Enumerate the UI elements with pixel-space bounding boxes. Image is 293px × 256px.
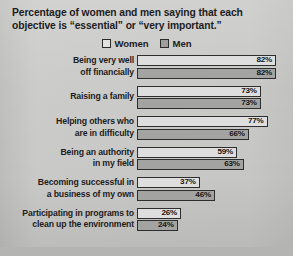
chart-title: Percentage of women and men saying that … xyxy=(12,6,284,32)
bar-row: 73% xyxy=(137,98,293,109)
bar-women: 77% xyxy=(137,116,268,127)
bar-value-label: 26% xyxy=(161,209,177,217)
chart-card: Percentage of women and men saying that … xyxy=(0,0,293,256)
bar-pair: 37%46% xyxy=(137,177,293,201)
chart-title-line-2: objective is “essential” or “very import… xyxy=(12,19,284,32)
legend-swatch-men-icon xyxy=(160,39,169,48)
category-label: Becoming successful ina business of my o… xyxy=(0,177,137,200)
bar-value-label: 73% xyxy=(241,99,257,107)
category-label-line: off financially xyxy=(0,67,134,79)
bar-row: 82% xyxy=(137,55,293,66)
bar-value-label: 73% xyxy=(241,87,257,95)
bar-women: 82% xyxy=(137,55,276,66)
bar-men: 63% xyxy=(137,159,244,170)
category-label-line: Being an authority xyxy=(60,147,134,157)
bar-men: 66% xyxy=(137,129,249,140)
bar-row: 77% xyxy=(137,116,293,127)
bar-value-label: 77% xyxy=(248,117,264,125)
bar-group: Participating in programs toclean up the… xyxy=(0,208,293,232)
category-label-line: are in difficulty xyxy=(0,128,134,140)
category-label-line: in my field xyxy=(0,158,134,170)
bar-pair: 77%66% xyxy=(137,116,293,140)
category-label: Being very welloff financially xyxy=(0,55,137,78)
bar-row: 37% xyxy=(137,177,293,188)
bar-women: 26% xyxy=(137,208,181,219)
bar-row: 73% xyxy=(137,86,293,97)
category-label-line: Participating in programs to xyxy=(22,208,134,218)
legend-item-men: Men xyxy=(160,38,192,49)
bar-men: 73% xyxy=(137,98,261,109)
bar-value-label: 59% xyxy=(217,148,233,156)
bar-women: 37% xyxy=(137,177,200,188)
category-label-line: Raising a family xyxy=(70,91,134,101)
category-label: Raising a family xyxy=(0,91,137,103)
bar-row: 24% xyxy=(137,220,293,231)
bar-row: 26% xyxy=(137,208,293,219)
bar-pair: 59%63% xyxy=(137,147,293,171)
bar-value-label: 37% xyxy=(180,178,196,186)
bar-value-label: 63% xyxy=(224,160,240,168)
legend-label-women: Women xyxy=(115,38,149,49)
bar-row: 63% xyxy=(137,159,293,170)
bar-value-label: 46% xyxy=(195,191,211,199)
category-label-line: Becoming successful in xyxy=(38,177,134,187)
bar-value-label: 66% xyxy=(229,130,245,138)
category-label-line: a business of my own xyxy=(0,189,134,201)
bar-men: 24% xyxy=(137,220,178,231)
bar-men: 82% xyxy=(137,68,276,79)
bar-group: Being very welloff financially82%82% xyxy=(0,55,293,79)
category-label: Helping others whoare in difficulty xyxy=(0,116,137,139)
bar-group: Helping others whoare in difficulty77%66… xyxy=(0,116,293,140)
category-label-line: clean up the environment xyxy=(0,219,134,231)
bar-men: 46% xyxy=(137,190,215,201)
category-label: Participating in programs toclean up the… xyxy=(0,208,137,231)
bar-row: 66% xyxy=(137,129,293,140)
bar-chart-plot: Being very welloff financially82%82%Rais… xyxy=(0,55,293,231)
chart-title-line-1: Percentage of women and men saying that … xyxy=(12,6,284,19)
category-label: Being an authorityin my field xyxy=(0,147,137,170)
bar-pair: 73%73% xyxy=(137,86,293,110)
legend-label-men: Men xyxy=(173,38,192,49)
bar-row: 46% xyxy=(137,190,293,201)
bar-value-label: 24% xyxy=(158,221,174,229)
bar-value-label: 82% xyxy=(256,56,272,64)
chart-legend: Women Men xyxy=(0,38,293,49)
bar-pair: 82%82% xyxy=(137,55,293,79)
bar-pair: 26%24% xyxy=(137,208,293,232)
bar-women: 73% xyxy=(137,86,261,97)
bar-group: Raising a family73%73% xyxy=(0,86,293,110)
category-label-line: Being very well xyxy=(73,55,134,65)
bar-row: 82% xyxy=(137,68,293,79)
bar-group: Becoming successful ina business of my o… xyxy=(0,177,293,201)
legend-item-women: Women xyxy=(102,38,149,49)
bar-women: 59% xyxy=(137,147,237,158)
bar-value-label: 82% xyxy=(256,69,272,77)
category-label-line: Helping others who xyxy=(56,116,134,126)
bottom-band xyxy=(0,247,293,256)
legend-swatch-women-icon xyxy=(102,39,111,48)
bar-group: Being an authorityin my field59%63% xyxy=(0,147,293,171)
bar-row: 59% xyxy=(137,147,293,158)
